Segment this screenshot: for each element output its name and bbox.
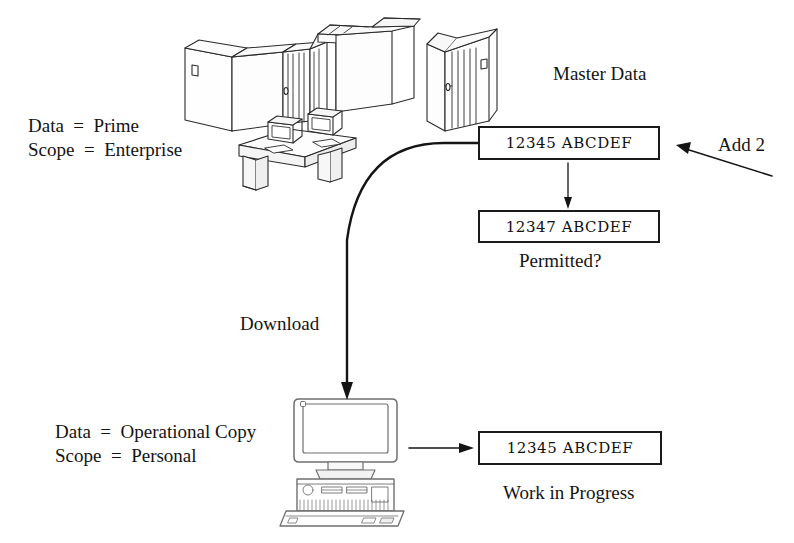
- operator-desk-icon: [239, 129, 356, 190]
- master-record-value: 12345 ABCDEF: [506, 134, 633, 152]
- permitted-label: Permitted?: [519, 249, 601, 273]
- updated-record-value: 12347 ABCDEF: [506, 218, 633, 236]
- master-data-label: Master Data: [553, 62, 646, 86]
- master-record-box: 12345 ABCDEF: [478, 126, 660, 160]
- mainframe-computer-icon: [185, 18, 420, 131]
- work-in-progress-label: Work in Progress: [503, 481, 634, 505]
- curved-arrow-icon: [341, 143, 478, 400]
- personal-scope-line: Scope = Personal: [55, 445, 197, 466]
- right-arrow-icon: [409, 443, 474, 453]
- disk-cabinet-icon: [427, 29, 497, 131]
- down-arrow-icon: [564, 163, 572, 209]
- add-2-label: Add 2: [718, 133, 765, 157]
- enterprise-scope-line: Scope = Enterprise: [28, 139, 182, 160]
- terminal-icon: [308, 108, 342, 135]
- enterprise-data-line: Data = Prime: [28, 115, 139, 136]
- enterprise-annotation: Data = PrimeScope = Enterprise: [28, 114, 182, 163]
- updated-record-box: 12347 ABCDEF: [478, 210, 660, 243]
- download-label: Download: [240, 312, 319, 336]
- work-in-progress-record-value: 12345 ABCDEF: [507, 439, 634, 457]
- personal-data-line: Data = Operational Copy: [55, 421, 256, 442]
- work-in-progress-record-box: 12345 ABCDEF: [478, 431, 662, 465]
- personal-annotation: Data = Operational CopyScope = Personal: [55, 420, 256, 469]
- diagram-canvas: Data = PrimeScope = Enterprise Master Da…: [0, 0, 794, 543]
- desktop-pc-icon: [280, 399, 404, 526]
